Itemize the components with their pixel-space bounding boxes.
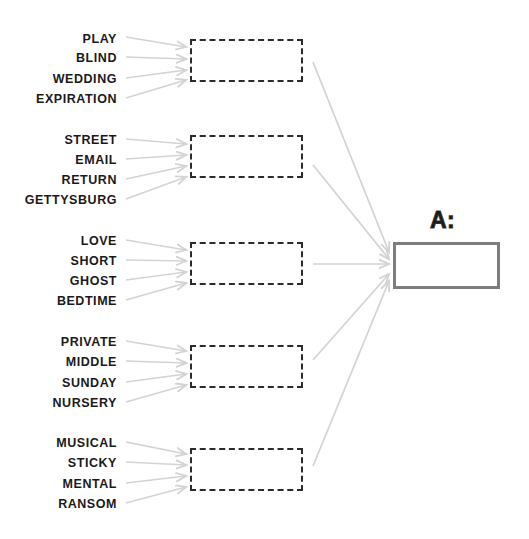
slot-arrow — [313, 274, 389, 360]
word-arrow — [126, 462, 186, 465]
word-arrow — [126, 70, 186, 78]
word-label: EMAIL — [0, 154, 117, 167]
answer-slot-3[interactable] — [190, 242, 303, 285]
word-label: RANSOM — [0, 498, 117, 511]
word-arrow — [126, 240, 186, 250]
word-label: NURSERY — [0, 397, 117, 410]
slot-to-answer-arrows — [313, 62, 389, 466]
word-arrow — [126, 283, 186, 300]
word-arrow — [126, 155, 186, 159]
answer-slot-5[interactable] — [190, 448, 303, 491]
word-to-slot-arrows — [126, 37, 186, 503]
word-label: SHORT — [0, 255, 117, 268]
word-arrow — [126, 476, 186, 483]
word-label: EXPIRATION — [0, 93, 117, 106]
answer-slot-2[interactable] — [190, 135, 303, 178]
answer-slot-4[interactable] — [190, 345, 303, 388]
word-arrow — [126, 57, 186, 59]
word-label: SUNDAY — [0, 377, 117, 390]
word-label: GHOST — [0, 275, 117, 288]
word-label: PRIVATE — [0, 336, 117, 349]
word-label: RETURN — [0, 174, 117, 187]
word-arrow — [126, 177, 186, 199]
word-arrow — [126, 37, 186, 47]
slot-arrow — [313, 165, 389, 259]
slot-arrow — [313, 62, 389, 252]
word-arrow — [126, 139, 186, 144]
word-arrow — [126, 487, 186, 503]
word-label: MENTAL — [0, 478, 117, 491]
answer-input-box[interactable] — [393, 242, 500, 289]
word-label: BLIND — [0, 52, 117, 65]
word-label: STICKY — [0, 457, 117, 470]
word-arrow — [126, 166, 186, 179]
word-arrow — [126, 260, 186, 261]
word-label: WEDDING — [0, 73, 117, 86]
word-arrow — [126, 341, 186, 351]
answer-label: A: — [430, 209, 455, 232]
answer-slot-1[interactable] — [190, 39, 303, 82]
word-label: STREET — [0, 134, 117, 147]
word-label: BEDTIME — [0, 295, 117, 308]
word-label: LOVE — [0, 235, 117, 248]
slot-arrow — [313, 281, 389, 466]
word-label: MUSICAL — [0, 437, 117, 450]
word-arrow — [126, 361, 186, 363]
word-label: GETTYSBURG — [0, 194, 117, 207]
word-arrow — [126, 272, 186, 280]
word-association-diagram: PLAYBLINDWEDDINGEXPIRATIONSTREETEMAILRET… — [0, 0, 529, 539]
word-label: MIDDLE — [0, 356, 117, 369]
word-label: PLAY — [0, 33, 117, 46]
word-arrow — [126, 374, 186, 382]
word-arrow — [126, 80, 186, 98]
word-arrow — [126, 385, 186, 402]
word-arrow — [126, 442, 186, 454]
